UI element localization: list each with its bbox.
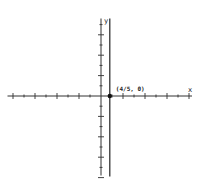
point-label: (4/5, 0) (116, 85, 145, 92)
y-axis-label: y (104, 17, 108, 25)
chart: x y (4/5, 0) (0, 0, 198, 184)
x-axis-label: x (188, 86, 192, 94)
point-marker (108, 94, 112, 98)
